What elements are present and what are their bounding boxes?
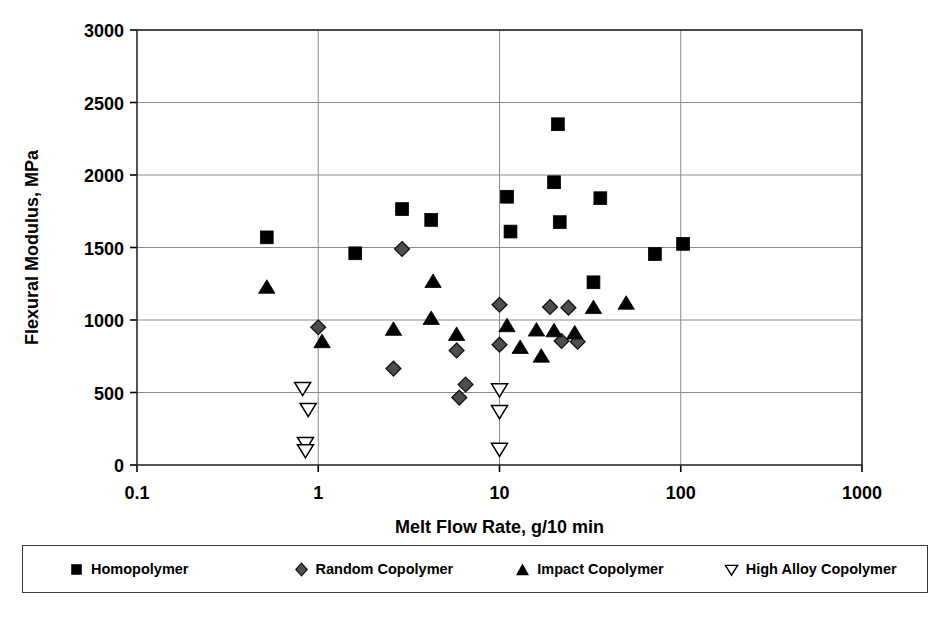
filled-triangle-icon (515, 562, 530, 577)
data-point (585, 300, 601, 314)
data-point (512, 340, 528, 354)
data-point (295, 382, 311, 395)
y-tick-label: 2500 (84, 94, 124, 114)
data-point (311, 320, 326, 335)
x-tick-label: 100 (666, 483, 696, 503)
open-down-triangle-icon (724, 562, 739, 577)
legend-marker (295, 563, 306, 576)
y-tick-label: 2000 (84, 166, 124, 186)
series-random-copolymer (311, 242, 585, 405)
data-point (492, 443, 508, 456)
data-point (618, 296, 634, 310)
data-point (297, 445, 313, 458)
x-axis-title: Melt Flow Rate, g/10 min (395, 517, 604, 537)
data-point (501, 190, 514, 203)
data-point (458, 377, 473, 392)
data-point (259, 280, 275, 294)
data-point (349, 247, 362, 260)
series-homopolymer (260, 118, 689, 289)
series-high-alloy-copolymer (295, 382, 508, 458)
legend-label: Impact Copolymer (537, 561, 664, 577)
y-axis-title: Flexural Modulus, MPa (22, 149, 42, 345)
data-point (386, 361, 401, 376)
x-tick-label: 1 (313, 483, 323, 503)
data-point (594, 192, 607, 205)
x-tick-label: 1000 (842, 483, 882, 503)
data-point (546, 323, 562, 337)
x-tick-label: 0.1 (124, 483, 149, 503)
data-point (492, 337, 507, 352)
data-point (561, 300, 576, 315)
data-point (314, 334, 330, 348)
data-point (528, 323, 544, 337)
legend-marker (516, 563, 529, 575)
legend-item-impact-copolymer: Impact Copolymer (515, 561, 664, 577)
data-point (425, 214, 438, 227)
data-point (425, 274, 441, 288)
data-point (543, 300, 558, 315)
legend-marker (71, 564, 82, 575)
chart-legend: Homopolymer Random Copolymer Impact Copo… (22, 545, 928, 593)
legend-item-random-copolymer: Random Copolymer (294, 561, 454, 577)
data-point (300, 403, 316, 416)
data-point (395, 242, 410, 257)
legend-label: High Alloy Copolymer (746, 561, 897, 577)
data-point (396, 203, 409, 216)
data-point (423, 311, 439, 325)
data-point (504, 225, 517, 238)
data-point (548, 176, 561, 189)
data-point (492, 406, 508, 419)
data-point (385, 322, 401, 336)
data-point (260, 231, 273, 244)
y-tick-label: 0 (114, 456, 124, 476)
legend-marker (725, 565, 737, 575)
data-point (492, 297, 507, 312)
x-tick-label: 10 (489, 483, 509, 503)
data-point (567, 325, 583, 339)
y-tick-label: 1000 (84, 311, 124, 331)
plot-svg: 0500100015002000250030000.11101001000Mel… (0, 0, 950, 540)
legend-label: Homopolymer (91, 561, 189, 577)
filled-square-icon (69, 562, 84, 577)
legend-item-homopolymer: Homopolymer (69, 561, 189, 577)
data-point (553, 216, 566, 229)
y-tick-label: 500 (94, 384, 124, 404)
y-tick-label: 3000 (84, 21, 124, 41)
legend-item-high-alloy-copolymer: High Alloy Copolymer (724, 561, 897, 577)
y-tick-label: 1500 (84, 239, 124, 259)
data-point (648, 248, 661, 261)
data-point (533, 349, 549, 363)
chart-page: 0500100015002000250030000.11101001000Mel… (0, 0, 950, 625)
data-point (587, 276, 600, 289)
filled-diamond-icon (294, 562, 309, 577)
data-point (492, 384, 508, 397)
data-point (448, 327, 464, 341)
data-point (449, 343, 464, 358)
scatter-plot-figure: 0500100015002000250030000.11101001000Mel… (0, 0, 950, 540)
data-point (677, 237, 690, 250)
data-point (552, 118, 565, 131)
legend-label: Random Copolymer (316, 561, 454, 577)
